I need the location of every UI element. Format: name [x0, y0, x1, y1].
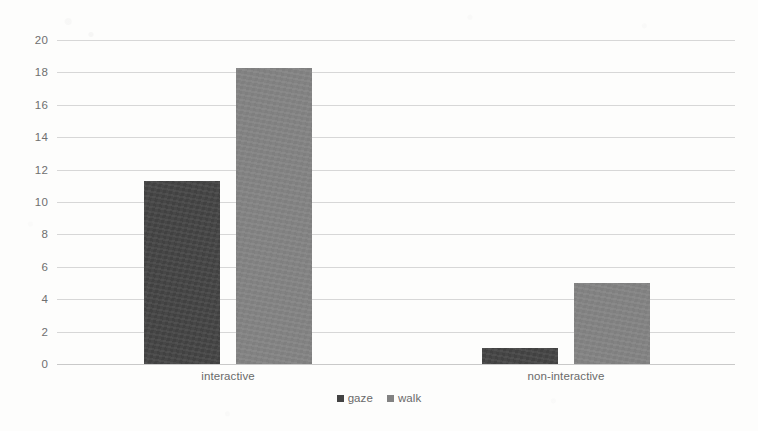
- x-axis-category-label: non-interactive: [528, 370, 605, 382]
- y-axis-tick-label: 2: [8, 326, 48, 338]
- y-axis-tick-label: 6: [8, 261, 48, 273]
- bar-chart: 20181614121086420 interactivenon-interac…: [0, 0, 758, 431]
- y-axis-tick-label: 14: [8, 131, 48, 143]
- y-axis-tick-label: 20: [8, 34, 48, 46]
- chart-legend: gazewalk: [0, 392, 758, 404]
- bar-walk-interactive[interactable]: [236, 68, 312, 364]
- gridline: [57, 137, 735, 138]
- legend-label: gaze: [348, 392, 373, 404]
- y-axis-tick-label: 16: [8, 99, 48, 111]
- gridline: [57, 105, 735, 106]
- y-axis-tick-label: 10: [8, 196, 48, 208]
- y-axis-tick-label: 0: [8, 358, 48, 370]
- bar-walk-non-interactive[interactable]: [574, 283, 650, 364]
- y-axis-tick-label: 18: [8, 66, 48, 78]
- square-marker-icon: [387, 395, 394, 402]
- bar-gaze-non-interactive[interactable]: [482, 348, 558, 364]
- gridline: [57, 364, 735, 365]
- y-axis-tick-label: 12: [8, 164, 48, 176]
- plot-area: [57, 40, 735, 364]
- y-axis: 20181614121086420: [0, 40, 48, 364]
- bar-gaze-interactive[interactable]: [144, 181, 220, 364]
- square-marker-icon: [337, 395, 344, 402]
- gridline: [57, 170, 735, 171]
- y-axis-tick-label: 8: [8, 228, 48, 240]
- legend-entry-gaze[interactable]: gaze: [337, 392, 373, 404]
- x-axis-category-label: interactive: [201, 370, 255, 382]
- gridline: [57, 72, 735, 73]
- gridline: [57, 40, 735, 41]
- legend-entry-walk[interactable]: walk: [387, 392, 421, 404]
- y-axis-tick-label: 4: [8, 293, 48, 305]
- legend-label: walk: [398, 392, 421, 404]
